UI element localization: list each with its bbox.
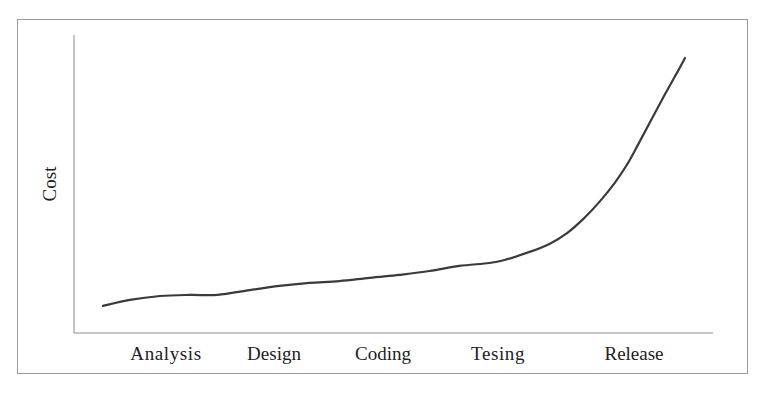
x-tick-coding: Coding xyxy=(355,343,411,365)
x-tick-tesing: Tesing xyxy=(471,343,525,365)
cost-curve xyxy=(103,58,685,306)
y-axis-label: Cost xyxy=(39,167,61,202)
x-tick-analysis: Analysis xyxy=(130,343,201,365)
chart-plot xyxy=(0,0,766,396)
x-tick-design: Design xyxy=(247,343,301,365)
x-tick-release: Release xyxy=(604,343,663,365)
